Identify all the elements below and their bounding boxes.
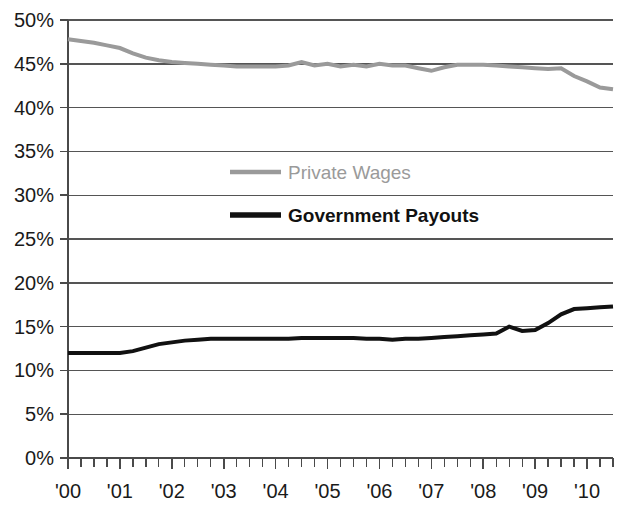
x-tick-label: '02: [159, 480, 185, 502]
chart-container: 0%5%10%15%20%25%30%35%40%45%50% '00'01'0…: [0, 0, 626, 513]
x-tick-label: '04: [263, 480, 289, 502]
x-axis-tick-labels: '00'01'02'03'04'05'06'07'08'09'10: [55, 480, 600, 502]
x-tick-label: '00: [55, 480, 81, 502]
series-line-government-payouts: [68, 306, 613, 352]
x-tick-label: '03: [211, 480, 237, 502]
y-tick-label: 0%: [25, 447, 54, 469]
y-tick-label: 10%: [14, 359, 54, 381]
y-tick-label: 45%: [14, 53, 54, 75]
x-tick-label: '10: [574, 480, 600, 502]
y-tick-label: 50%: [14, 9, 54, 31]
y-axis-tick-labels: 0%5%10%15%20%25%30%35%40%45%50%: [14, 9, 54, 469]
x-axis: [60, 458, 613, 469]
data-series: [68, 39, 613, 353]
x-tick-label: '08: [470, 480, 496, 502]
legend-label-government-payouts: Government Payouts: [288, 205, 479, 226]
line-chart: 0%5%10%15%20%25%30%35%40%45%50% '00'01'0…: [0, 0, 626, 513]
x-tick-label: '07: [418, 480, 444, 502]
y-axis: [60, 20, 68, 460]
x-tick-label: '06: [366, 480, 392, 502]
x-tick-label: '01: [107, 480, 133, 502]
chart-legend: Private WagesGovernment Payouts: [230, 162, 479, 226]
y-tick-label: 35%: [14, 140, 54, 162]
y-tick-label: 5%: [25, 403, 54, 425]
legend-label-private-wages: Private Wages: [288, 162, 411, 183]
y-tick-label: 25%: [14, 228, 54, 250]
x-tick-label: '09: [522, 480, 548, 502]
y-tick-label: 15%: [14, 316, 54, 338]
y-tick-label: 40%: [14, 97, 54, 119]
x-tick-label: '05: [314, 480, 340, 502]
y-tick-label: 20%: [14, 272, 54, 294]
y-tick-label: 30%: [14, 184, 54, 206]
